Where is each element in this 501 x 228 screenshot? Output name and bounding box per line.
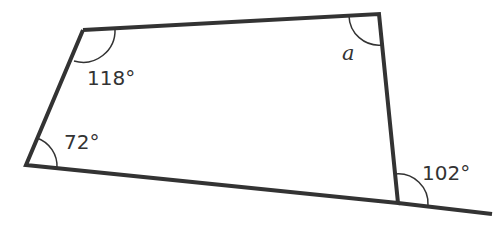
quadrilateral-diagram: 118° a 72° 102° <box>0 0 501 228</box>
angle-label-top-left: 118° <box>87 66 135 90</box>
angle-label-top-right: a <box>342 41 355 65</box>
angle-label-bottom-left: 72° <box>64 130 99 154</box>
bottom-side-extension <box>398 203 492 214</box>
angle-label-exterior-bottom-right: 102° <box>422 161 470 185</box>
angle-arc-bottom-left <box>37 138 57 168</box>
